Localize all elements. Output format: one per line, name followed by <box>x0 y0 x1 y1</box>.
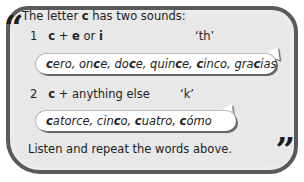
rule1-label: 1 c + e or i <box>30 29 103 43</box>
rule2-rest: + anything else <box>55 87 150 101</box>
rule1-e: e <box>72 29 80 43</box>
rule1-plus: + <box>55 29 72 43</box>
intro-letter: c <box>82 9 89 23</box>
rule1-sound: ‘th’ <box>195 29 214 43</box>
intro-pre: The letter <box>22 9 82 23</box>
instruction-text: Listen and repeat the words above. <box>28 142 232 156</box>
close-quote-icon: ” <box>275 133 292 167</box>
rule2-number: 2 <box>30 87 37 101</box>
intro-post: has two sounds: <box>89 9 186 23</box>
rule2-sound: ‘k’ <box>180 87 194 101</box>
rule1-or: or <box>80 29 99 43</box>
rule2-label: 2 c + anything else <box>30 87 150 101</box>
rule2-words-bubble: catorce, cinco, cuatro, cómo <box>36 111 236 131</box>
rule1-words-bubble: cero, once, doce, quince, cinco, gracias <box>36 54 276 74</box>
intro-text: The letter c has two sounds: <box>22 9 186 23</box>
open-quote-icon: “ <box>4 10 21 44</box>
rule1-i: i <box>99 29 103 43</box>
rule1-number: 1 <box>30 29 37 43</box>
